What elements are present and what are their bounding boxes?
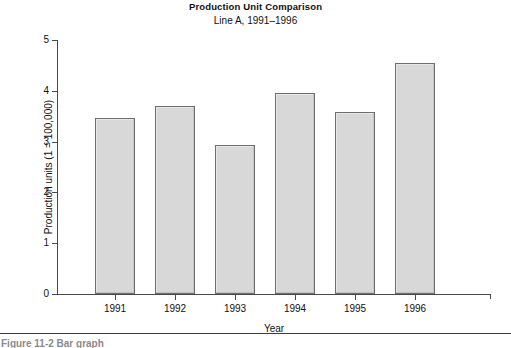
x-axis-line <box>57 294 491 295</box>
chart-subtitle: Line A, 1991–1996 <box>0 14 511 27</box>
x-tick-label-1993: 1993 <box>205 303 265 314</box>
chart-title: Production Unit Comparison <box>0 1 511 13</box>
bar-1994 <box>275 93 315 294</box>
x-tick-label-1992: 1992 <box>145 303 205 314</box>
x-tick-label-1994: 1994 <box>265 303 325 314</box>
bar-1996 <box>395 63 435 294</box>
figure-container: Production Unit Comparison Line A, 1991–… <box>0 0 511 348</box>
x-tick-label-1991: 1991 <box>85 303 145 314</box>
x-tick-1996 <box>415 295 416 300</box>
x-tick-1994 <box>295 295 296 300</box>
x-tick-label-1996: 1996 <box>385 303 445 314</box>
figure-caption: Figure 11-2 Bar graph <box>1 338 401 348</box>
x-tick-label-1995: 1995 <box>325 303 385 314</box>
bar-1995 <box>335 112 375 294</box>
y-axis-title: Production units (1 = 100,000) <box>43 40 55 294</box>
x-tick-1995 <box>355 295 356 300</box>
caption-divider <box>0 333 511 334</box>
x-tick-1993 <box>235 295 236 300</box>
bar-1993 <box>215 145 255 294</box>
x-axis-end-tick <box>490 294 491 299</box>
y-tick-0 <box>52 294 57 295</box>
x-tick-1991 <box>115 295 116 300</box>
bar-1992 <box>155 106 195 294</box>
title-block: Production Unit Comparison Line A, 1991–… <box>0 1 511 27</box>
bar-1991 <box>95 118 135 294</box>
y-axis-line <box>57 40 58 294</box>
plot-area: 0 1 2 3 4 5 1991 1992 <box>57 40 491 294</box>
x-tick-1992 <box>175 295 176 300</box>
